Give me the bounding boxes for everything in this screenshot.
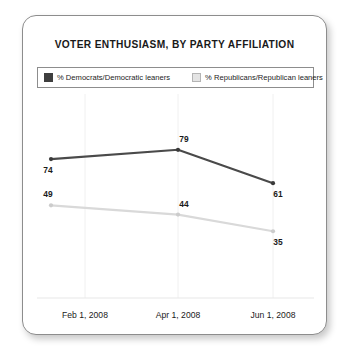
series-line-dem [51,150,273,183]
data-point-rep-1[interactable] [176,213,180,217]
data-label-dem-1: 79 [179,134,189,144]
data-label-dem-2: 61 [273,189,283,199]
screenshot-stage: VOTER ENTHUSIASM, BY PARTY AFFILIATION %… [0,0,349,355]
data-point-rep-0[interactable] [49,203,53,207]
x-tick-label-1: Apr 1, 2008 [156,310,201,320]
data-label-rep-2: 35 [273,237,283,247]
data-label-rep-1: 44 [179,199,189,209]
data-point-dem-0[interactable] [49,157,53,161]
x-tick-label-2: Jun 1, 2008 [251,310,296,320]
chart-data-markers [49,148,275,234]
data-label-rep-0: 49 [43,189,53,199]
data-point-rep-2[interactable] [271,229,275,233]
chart-card: VOTER ENTHUSIASM, BY PARTY AFFILIATION %… [22,15,327,335]
chart-gridlines [85,94,273,298]
data-point-dem-2[interactable] [271,181,275,185]
series-line-rep [51,205,273,231]
chart-x-tick-labels: Feb 1, 2008Apr 1, 2008Jun 1, 2008 [62,310,296,320]
line-chart-plot: 747961494435 Feb 1, 2008Apr 1, 2008Jun 1… [23,16,327,335]
data-point-dem-1[interactable] [176,148,180,152]
x-tick-label-0: Feb 1, 2008 [62,310,108,320]
chart-series-lines [51,150,273,232]
data-label-dem-0: 74 [43,165,53,175]
